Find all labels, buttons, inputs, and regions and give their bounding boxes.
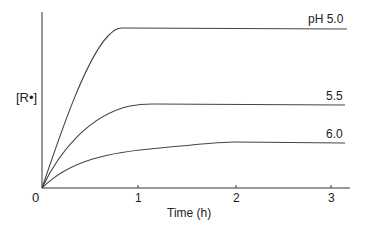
x-axis-label: Time (h): [167, 206, 211, 220]
x-tick-label-2: 2: [233, 191, 240, 205]
series-label-5-5: 5.5: [326, 89, 343, 103]
curve-ph-5-5: [42, 104, 345, 188]
curve-ph-6-0: [42, 142, 345, 188]
x-tick-label-1: 1: [135, 191, 142, 205]
series-label-ph-5-0: pH 5.0: [308, 12, 343, 26]
curve-ph-5-0: [42, 28, 347, 188]
y-axis-label: [R•]: [16, 90, 37, 105]
origin-label: 0: [32, 190, 39, 205]
series-label-6-0: 6.0: [326, 127, 343, 141]
x-tick-label-3: 3: [328, 191, 335, 205]
chart-canvas: [0, 0, 367, 231]
